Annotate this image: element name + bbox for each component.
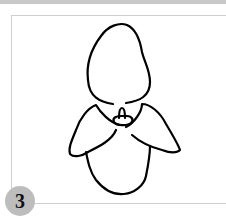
step-number-badge: 3 xyxy=(5,186,35,216)
left-petal xyxy=(69,105,120,156)
top-petal xyxy=(88,24,150,104)
bottom-petal xyxy=(86,146,150,194)
flower-center-ring xyxy=(113,116,132,125)
flower-outline-icon xyxy=(0,0,226,218)
right-petal xyxy=(126,104,180,153)
